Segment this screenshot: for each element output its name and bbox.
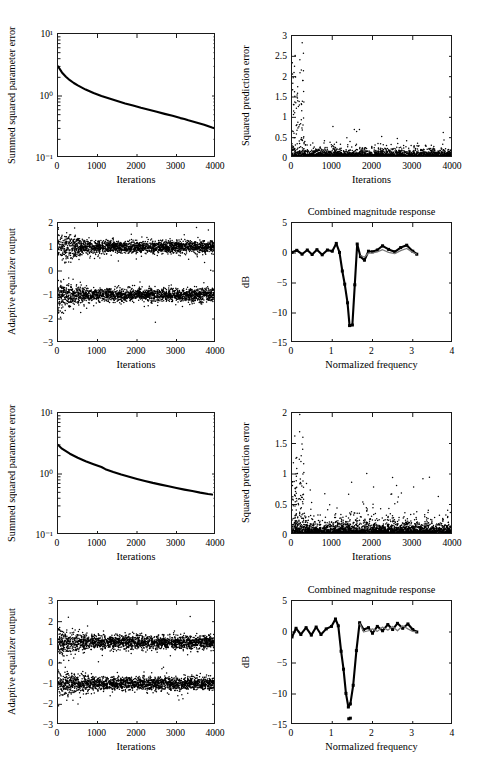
x-tick-label: 1000 xyxy=(322,537,341,548)
panel-title: Combined magnitude response xyxy=(261,584,482,595)
data-marker xyxy=(367,626,370,629)
data-marker xyxy=(367,250,370,253)
plot-canvas xyxy=(292,601,452,724)
x-axis-label: Iterations xyxy=(57,359,215,370)
y-tick-label: −2 xyxy=(43,698,53,709)
x-tick-label: 0 xyxy=(289,727,294,738)
data-marker xyxy=(340,650,343,653)
x-tick-label: 0 xyxy=(289,345,294,356)
x-tick-label: 0 xyxy=(289,160,294,171)
x-tick-label: 1 xyxy=(329,727,334,738)
data-marker xyxy=(315,248,318,251)
plot-area xyxy=(57,222,215,342)
data-marker xyxy=(326,249,329,252)
x-axis-label: Iterations xyxy=(291,174,452,185)
y-tick-label: −15 xyxy=(272,337,287,348)
y-axis-label: Adaptive equalizer output xyxy=(5,585,17,739)
y-tick-label: 1 xyxy=(48,636,53,647)
x-tick-label: 4000 xyxy=(205,727,224,738)
data-series-2 xyxy=(360,249,416,258)
data-series-1 xyxy=(292,619,417,707)
x-tick-label: 4 xyxy=(450,727,455,738)
chart-panel-2: 00.511.522.5301000200030004000Squared pr… xyxy=(0,0,482,760)
y-tick-label: −1 xyxy=(43,677,53,688)
data-marker xyxy=(301,253,304,256)
data-marker xyxy=(358,621,361,624)
y-tick-label: 2 xyxy=(282,407,287,418)
y-tick-label: 5 xyxy=(282,595,287,606)
x-tick-label: 4000 xyxy=(205,345,224,356)
x-tick-label: 0 xyxy=(55,160,60,171)
plot-area xyxy=(57,600,215,724)
y-tick-label: 1 xyxy=(282,111,287,122)
data-marker xyxy=(415,631,418,634)
data-marker xyxy=(311,253,314,256)
x-tick-label: 1000 xyxy=(87,345,106,356)
plot-canvas xyxy=(292,223,452,342)
data-marker xyxy=(346,301,349,304)
x-tick-label: 2000 xyxy=(362,160,381,171)
data-marker xyxy=(362,628,365,631)
y-tick-label: −15 xyxy=(272,719,287,730)
data-series-1 xyxy=(58,66,215,128)
x-tick-label: 0 xyxy=(55,537,60,548)
y-tick-label: 3 xyxy=(282,30,287,41)
y-tick-label: 2 xyxy=(48,217,53,228)
data-marker xyxy=(381,629,384,632)
data-marker xyxy=(359,255,362,258)
y-tick-label: 10⁻¹ xyxy=(36,152,53,163)
data-marker xyxy=(325,627,328,630)
data-marker xyxy=(376,249,379,252)
data-marker xyxy=(305,626,308,629)
data-series-1 xyxy=(292,243,417,325)
data-marker xyxy=(415,253,418,256)
data-marker xyxy=(341,270,344,273)
chart-panel-4: −15−10−50501234dBNormalized frequencyCom… xyxy=(0,0,482,760)
data-marker xyxy=(396,622,399,625)
chart-panel-5: 10⁻¹10⁰10¹01000200030004000Summed square… xyxy=(0,0,482,760)
x-axis-label: Iterations xyxy=(57,551,215,562)
x-tick-label: 2 xyxy=(369,727,374,738)
y-tick-label: 10¹ xyxy=(41,407,53,418)
data-marker xyxy=(335,242,338,245)
y-axis-label: Summed squared parameter error xyxy=(5,397,17,549)
data-marker xyxy=(321,253,324,256)
plot-area xyxy=(291,600,452,724)
multi-panel-figure: 10⁻¹10⁰10¹01000200030004000Summed square… xyxy=(0,0,482,760)
data-marker xyxy=(347,706,350,709)
y-tick-label: 5 xyxy=(282,217,287,228)
data-marker xyxy=(399,246,402,249)
x-tick-label: 3 xyxy=(409,345,414,356)
data-marker xyxy=(295,627,298,630)
y-tick-label: 10¹ xyxy=(41,28,53,39)
chart-panel-1: 10⁻¹10⁰10¹01000200030004000Summed square… xyxy=(0,0,482,760)
y-tick-label: −5 xyxy=(277,657,287,668)
y-axis-label: Squared prediction error xyxy=(239,20,251,172)
x-tick-label: 1000 xyxy=(87,727,106,738)
y-tick-label: −1 xyxy=(43,289,53,300)
data-marker xyxy=(343,283,346,286)
x-tick-label: 0 xyxy=(289,537,294,548)
y-tick-label: 0 xyxy=(48,265,53,276)
scatter-points xyxy=(292,414,452,534)
y-tick-label: 10⁰ xyxy=(39,468,53,479)
plot-canvas xyxy=(292,36,452,157)
data-marker xyxy=(406,622,409,625)
x-tick-label: 3000 xyxy=(402,537,421,548)
y-tick-label: 1 xyxy=(282,468,287,479)
y-tick-label: −3 xyxy=(43,337,53,348)
data-series-2 xyxy=(360,623,417,632)
y-tick-label: 1 xyxy=(48,241,53,252)
x-tick-label: 3000 xyxy=(166,160,185,171)
data-marker xyxy=(401,627,404,630)
y-axis-label: Adaptive equalizer output xyxy=(5,207,17,357)
y-axis-label: Summed squared parameter error xyxy=(5,18,17,172)
data-marker xyxy=(306,249,309,252)
data-marker xyxy=(405,244,408,247)
data-marker xyxy=(376,625,379,628)
data-marker xyxy=(363,259,366,262)
data-marker xyxy=(337,624,340,627)
data-marker xyxy=(381,244,384,247)
chart-panel-7: −3−2−1012301000200030004000Adaptive equa… xyxy=(0,0,482,760)
x-axis-label: Normalized frequency xyxy=(291,741,452,752)
